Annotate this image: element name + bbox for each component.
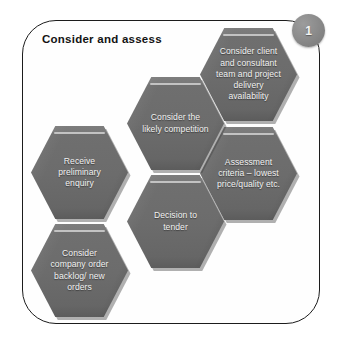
step-number-badge: 1 [292, 14, 325, 47]
hexagon-company-order-backlog[interactable]: Consider company order backlog/ new orde… [31, 224, 128, 317]
hexagon-label: Consider client and consultant team and … [211, 46, 287, 102]
step-number-label: 1 [305, 25, 312, 37]
hexagon-label: Receive preliminary enquiry [42, 156, 118, 190]
hexagon-label: Consider company order backlog/ new orde… [42, 248, 118, 293]
page-title: Consider and assess [42, 33, 162, 45]
hexagon-client-consultant[interactable]: Consider client and consultant team and … [200, 28, 297, 121]
hexagon-receive-preliminary-enquiry[interactable]: Receive preliminary enquiry [31, 126, 128, 219]
